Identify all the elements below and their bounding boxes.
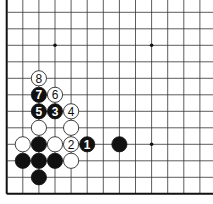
move-number: 6 [52,88,59,102]
white-stone [15,137,30,152]
black-stone [31,137,46,152]
stone-circle [112,137,127,152]
white-stone-6: 6 [47,87,62,102]
stone-circle [31,137,46,152]
move-number: 4 [68,105,75,119]
white-stone [47,137,62,152]
black-stone [15,153,30,168]
move-number: 5 [36,105,43,119]
white-stone [31,120,46,135]
star-point [53,44,57,48]
stone-circle [64,153,79,168]
move-number: 7 [36,88,43,102]
stone-circle [64,120,79,135]
move-number: 1 [84,138,91,152]
stone-circle [31,170,46,185]
white-stone-4: 4 [64,104,79,119]
stone-circle [47,137,62,152]
black-stone [31,170,46,185]
black-stone-1: 1 [80,137,95,152]
stone-circle [15,153,30,168]
black-stone-5: 5 [31,104,46,119]
star-point [150,143,154,147]
black-stone-3: 3 [47,104,62,119]
go-board-diagram: 87653421 [0,0,213,204]
white-stone [64,120,79,135]
stone-circle [31,153,46,168]
stone-circle [15,137,30,152]
move-number: 8 [36,72,43,86]
black-stone [31,153,46,168]
black-stone [47,153,62,168]
black-stone [112,137,127,152]
move-number: 2 [68,138,75,152]
stone-circle [47,153,62,168]
white-stone [64,153,79,168]
move-number: 3 [52,105,59,119]
star-point [150,44,154,48]
white-stone-8: 8 [31,71,46,86]
white-stone-2: 2 [64,137,79,152]
black-stone-7: 7 [31,87,46,102]
stone-circle [31,120,46,135]
